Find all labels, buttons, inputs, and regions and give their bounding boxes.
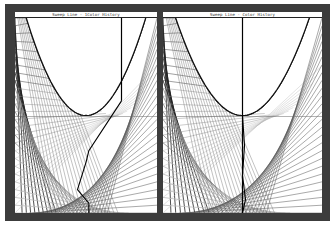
left-panel: Sweep Line - 1Color History — [15, 12, 157, 213]
left-plot — [15, 18, 157, 213]
ray-left-tangent — [163, 115, 279, 143]
right-panel: Sweep Line - Color History — [163, 12, 322, 213]
right-plot — [163, 18, 322, 213]
